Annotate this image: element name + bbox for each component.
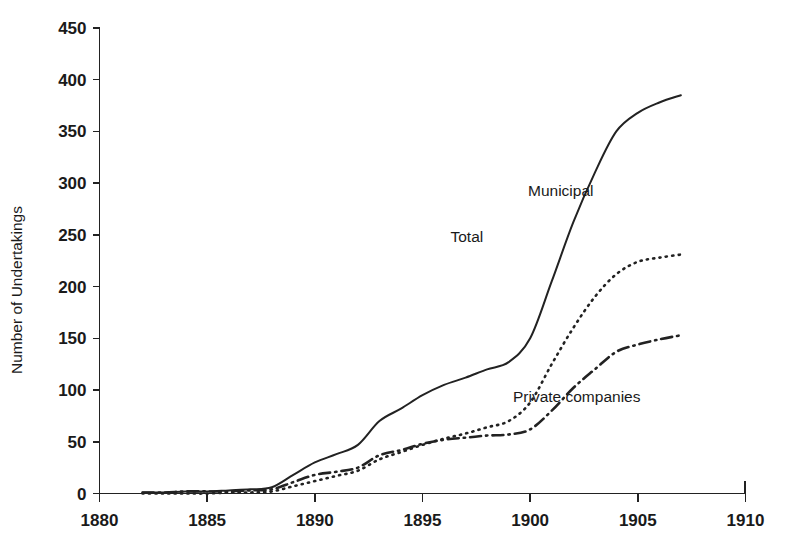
series-line-total xyxy=(143,95,681,492)
y-tick-label: 50 xyxy=(68,433,87,452)
y-tick-label: 0 xyxy=(77,485,86,504)
chart-figure: 050100150200250300350400450 188018851890… xyxy=(0,0,787,558)
series-line-municipal xyxy=(143,255,681,494)
x-tick-label: 1905 xyxy=(619,511,657,530)
series-label-municipal: Municipal xyxy=(528,182,593,199)
y-tick-label: 350 xyxy=(58,122,86,141)
y-tick-label: 300 xyxy=(58,174,86,193)
x-tick-label: 1910 xyxy=(727,511,765,530)
series-line-private-companies xyxy=(143,335,681,492)
series-label-total: Total xyxy=(450,228,483,245)
x-tick-label: 1895 xyxy=(404,511,442,530)
y-tick-label: 150 xyxy=(58,329,86,348)
y-tick-label: 450 xyxy=(58,19,86,38)
x-axis-ticks: 1880188518901895190019051910 xyxy=(81,494,765,530)
data-series-group xyxy=(143,95,681,493)
y-axis-ticks: 050100150200250300350400450 xyxy=(58,19,99,504)
y-tick-label: 400 xyxy=(58,71,86,90)
line-chart-plot: 050100150200250300350400450 188018851890… xyxy=(0,0,787,558)
x-tick-label: 1885 xyxy=(188,511,226,530)
series-label-private-companies: Private companies xyxy=(513,388,641,405)
x-tick-label: 1890 xyxy=(296,511,334,530)
x-tick-label: 1880 xyxy=(81,511,119,530)
y-tick-label: 100 xyxy=(58,381,86,400)
x-tick-label: 1900 xyxy=(511,511,549,530)
y-axis-title: Number of Undertakings xyxy=(8,206,25,374)
y-tick-label: 250 xyxy=(58,226,86,245)
y-tick-label: 200 xyxy=(58,278,86,297)
